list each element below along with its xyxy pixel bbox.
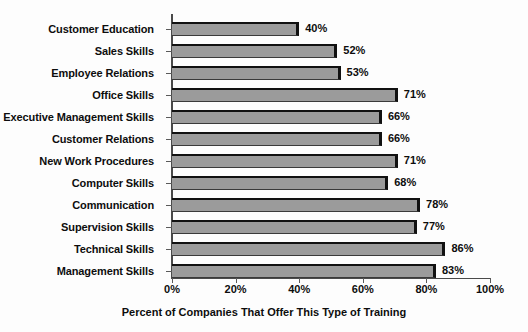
category-label: Executive Management Skills [0, 106, 164, 128]
category-label: Management Skills [0, 260, 164, 282]
x-axis-tick-label: 100% [476, 283, 504, 295]
bar-chart: Customer EducationSales SkillsEmployee R… [0, 0, 528, 332]
bar-row: 86% [172, 238, 490, 260]
bar [172, 88, 398, 102]
bar-value-label: 40% [305, 21, 327, 35]
bar [172, 66, 341, 80]
bar-value-label: 71% [404, 87, 426, 101]
bar-value-label: 83% [442, 263, 464, 277]
bar-row: 77% [172, 216, 490, 238]
category-label: Customer Relations [0, 128, 164, 150]
bar [172, 176, 388, 190]
bar [172, 264, 436, 278]
bar [172, 220, 417, 234]
bar-value-label: 78% [426, 197, 448, 211]
bar-value-label: 86% [451, 241, 473, 255]
category-label: Customer Education [0, 18, 164, 40]
category-label: Employee Relations [0, 62, 164, 84]
bar-value-label: 52% [343, 43, 365, 57]
x-axis-tick-label: 20% [225, 283, 247, 295]
bar-value-label: 53% [347, 65, 369, 79]
category-label: Computer Skills [0, 172, 164, 194]
category-label: Technical Skills [0, 238, 164, 260]
bar-row: 78% [172, 194, 490, 216]
bar-row: 71% [172, 150, 490, 172]
bar-row: 66% [172, 106, 490, 128]
bar-row: 52% [172, 40, 490, 62]
bar [172, 110, 382, 124]
category-label: Office Skills [0, 84, 164, 106]
bar [172, 242, 445, 256]
bar-row: 68% [172, 172, 490, 194]
bar-row: 40% [172, 18, 490, 40]
bar-value-label: 66% [388, 131, 410, 145]
bar-value-label: 77% [423, 219, 445, 233]
category-label: New Work Procedures [0, 150, 164, 172]
x-axis-tick-label: 60% [352, 283, 374, 295]
x-axis-tick-label: 0% [164, 283, 180, 295]
bar [172, 132, 382, 146]
bar-row: 71% [172, 84, 490, 106]
x-axis-title: Percent of Companies That Offer This Typ… [0, 306, 528, 318]
bar [172, 22, 299, 36]
bar [172, 44, 337, 58]
bar-row: 83% [172, 260, 490, 282]
bar-value-label: 71% [404, 153, 426, 167]
bar-value-label: 68% [394, 175, 416, 189]
x-axis-tick-label: 80% [415, 283, 437, 295]
bar-value-label: 66% [388, 109, 410, 123]
plot-area: 40%52%53%71%66%66%71%68%78%77%86%83% [172, 14, 490, 278]
category-label: Sales Skills [0, 40, 164, 62]
bar-row: 53% [172, 62, 490, 84]
bar [172, 154, 398, 168]
category-axis-labels: Customer EducationSales SkillsEmployee R… [0, 18, 164, 282]
x-axis-tick-labels: 0%20%40%60%80%100% [172, 283, 490, 297]
category-label: Supervision Skills [0, 216, 164, 238]
bar-row: 66% [172, 128, 490, 150]
x-axis-tick-label: 40% [288, 283, 310, 295]
bar [172, 198, 420, 212]
category-label: Communication [0, 194, 164, 216]
